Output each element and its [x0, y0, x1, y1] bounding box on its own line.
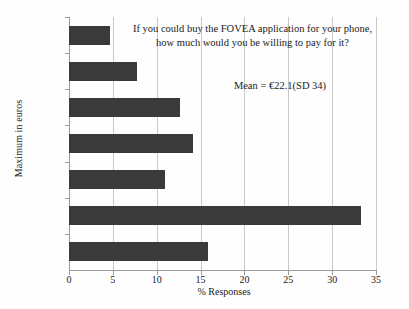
survey-question-line-2: how much would you be willing to pay for…	[115, 36, 390, 50]
survey-question-line-1: If you could buy the FOVEA application f…	[115, 22, 390, 36]
gridline-x-35	[376, 17, 377, 270]
y-tick	[65, 89, 69, 90]
x-axis-title: % Responses	[69, 286, 379, 297]
x-tick-label-15: 15	[181, 274, 221, 285]
bar-row: 11–20	[69, 125, 376, 161]
bar-row: 0	[69, 234, 376, 270]
mean-statistic-annotation: Mean = €22.1(SD 34)	[195, 80, 365, 91]
bar	[69, 134, 193, 153]
bar-row: 21–30	[69, 89, 376, 125]
x-tick-label-35: 35	[356, 274, 396, 285]
x-tick-label-25: 25	[268, 274, 308, 285]
plot-area: 01–56–1011–2021–3031–7071–175	[69, 17, 376, 270]
bar-row: 6–10	[69, 162, 376, 198]
bar-row: 1–5	[69, 198, 376, 234]
bar	[69, 206, 361, 225]
y-tick	[65, 162, 69, 163]
survey-question-annotation: If you could buy the FOVEA application f…	[115, 22, 390, 50]
y-tick	[65, 53, 69, 54]
x-tick-label-20: 20	[224, 274, 264, 285]
y-axis-title: Maximum in euros	[13, 69, 24, 209]
x-axis-line	[69, 270, 376, 271]
x-tick-label-30: 30	[312, 274, 352, 285]
y-tick	[65, 234, 69, 235]
y-tick	[65, 125, 69, 126]
bar	[69, 98, 180, 117]
bar	[69, 26, 110, 45]
bar-chart-figure: Maximum in euros % Responses 01–56–1011–…	[0, 0, 409, 309]
bar	[69, 170, 165, 189]
y-tick	[65, 17, 69, 18]
bar	[69, 242, 208, 261]
x-tick-label-0: 0	[49, 274, 89, 285]
x-tick-label-10: 10	[137, 274, 177, 285]
x-tick-label-5: 5	[93, 274, 133, 285]
y-tick	[65, 198, 69, 199]
bar	[69, 62, 137, 81]
